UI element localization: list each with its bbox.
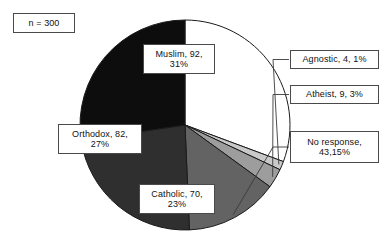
slice-label-atheist: Atheist, 9, 3%: [290, 85, 379, 104]
pie-chart-figure: n = 300 Muslim, 92, 31% Orthodox, 82, 27…: [0, 0, 384, 244]
cut-off-caption: [150, 236, 270, 244]
slice-label-orthodox: Orthodox, 82, 27%: [58, 124, 142, 154]
slice-label-agnostic: Agnostic, 4, 1%: [290, 50, 379, 69]
pie-slice-orthodox[interactable]: [80, 20, 185, 140]
slice-label-muslim: Muslim, 92, 31%: [143, 44, 215, 74]
slice-label-no-response: No response, 43,15%: [290, 131, 379, 163]
sample-size-box: n = 300: [13, 13, 75, 33]
slice-label-catholic: Catholic, 70, 23%: [139, 184, 215, 214]
